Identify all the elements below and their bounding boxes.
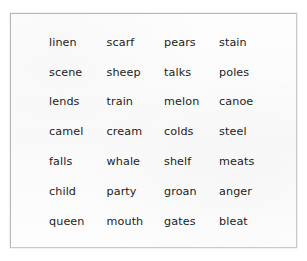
word-item: anger <box>219 184 296 200</box>
word-item: sheep <box>107 65 165 81</box>
word-item: colds <box>164 124 219 140</box>
word-item: queen <box>49 214 107 230</box>
word-item: canoe <box>219 94 296 110</box>
word-list-card: linen scarf pears stain scene sheep talk… <box>10 13 297 248</box>
word-item: stain <box>219 35 296 51</box>
word-item: party <box>107 184 165 200</box>
word-item: gates <box>164 214 219 230</box>
word-grid: linen scarf pears stain scene sheep talk… <box>11 14 296 247</box>
word-item: cream <box>107 124 165 140</box>
word-item: steel <box>219 124 296 140</box>
word-item: camel <box>49 124 107 140</box>
word-item: melon <box>164 94 219 110</box>
word-item: scarf <box>107 35 165 51</box>
word-item: lends <box>49 94 107 110</box>
word-item: pears <box>164 35 219 51</box>
word-item: train <box>107 94 165 110</box>
word-item: falls <box>49 154 107 170</box>
word-item: bleat <box>219 214 296 230</box>
word-item: scene <box>49 65 107 81</box>
word-item: meats <box>219 154 296 170</box>
word-item: shelf <box>164 154 219 170</box>
word-item: child <box>49 184 107 200</box>
word-item: whale <box>107 154 165 170</box>
word-item: linen <box>49 35 107 51</box>
word-item: mouth <box>107 214 165 230</box>
word-item: poles <box>219 65 296 81</box>
word-item: talks <box>164 65 219 81</box>
word-item: groan <box>164 184 219 200</box>
